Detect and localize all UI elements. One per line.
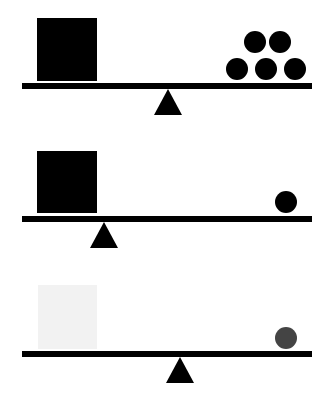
ball-weight — [275, 327, 297, 349]
fulcrum-triangle — [166, 357, 194, 383]
scale-2 — [22, 151, 312, 248]
ball-weight — [244, 31, 266, 53]
weight-square — [38, 285, 97, 349]
balance-diagram — [0, 0, 334, 411]
weight-square — [37, 151, 97, 213]
ball-weight — [275, 191, 297, 213]
fulcrum-triangle — [90, 222, 118, 248]
scale-3 — [22, 285, 312, 383]
ball-weight — [226, 58, 248, 80]
ball-weight — [284, 58, 306, 80]
scale-1 — [22, 18, 312, 115]
fulcrum-triangle — [154, 89, 182, 115]
ball-weight — [255, 58, 277, 80]
balance-beam — [22, 351, 312, 357]
balance-beam — [22, 216, 312, 222]
balance-beam — [22, 83, 312, 89]
weight-square — [37, 18, 97, 81]
ball-weight — [269, 31, 291, 53]
